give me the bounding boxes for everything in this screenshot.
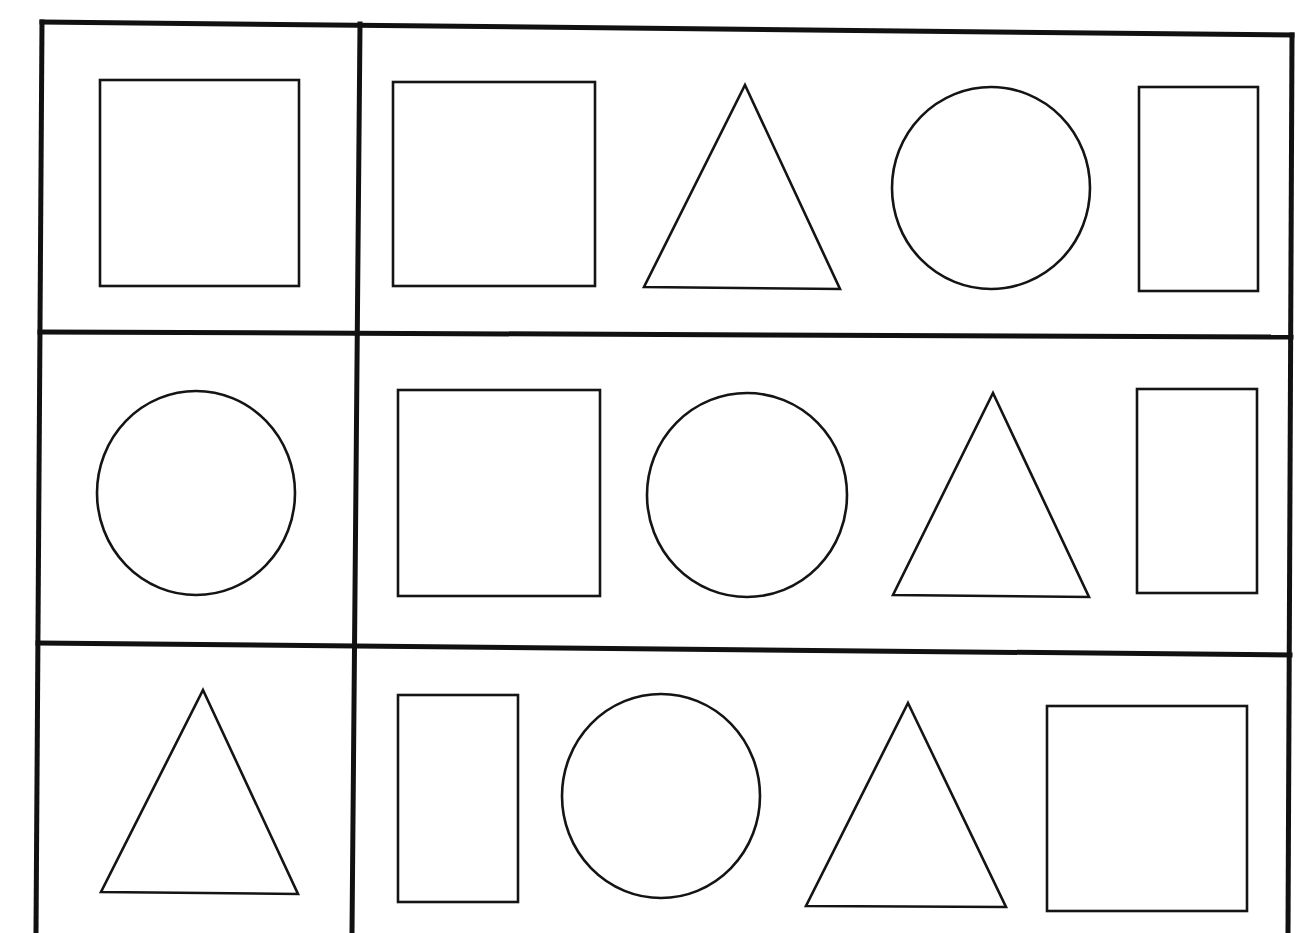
- target-shape-square-icon: [100, 80, 299, 286]
- shape-matching-worksheet: [0, 0, 1309, 933]
- choice-3-circle-icon: [892, 87, 1090, 289]
- choice-4-rectangle-icon: [1137, 389, 1257, 593]
- choice-1-square-icon: [393, 82, 595, 286]
- choice-4-rectangle-icon: [1139, 87, 1258, 291]
- choice-2-circle-icon: [562, 694, 760, 898]
- choice-2-circle-icon: [647, 393, 847, 597]
- choice-4-square-icon: [1047, 706, 1247, 911]
- target-shape-circle-icon: [97, 391, 295, 595]
- choice-1-rectangle-icon: [398, 695, 518, 902]
- choice-1-square-icon: [398, 390, 600, 596]
